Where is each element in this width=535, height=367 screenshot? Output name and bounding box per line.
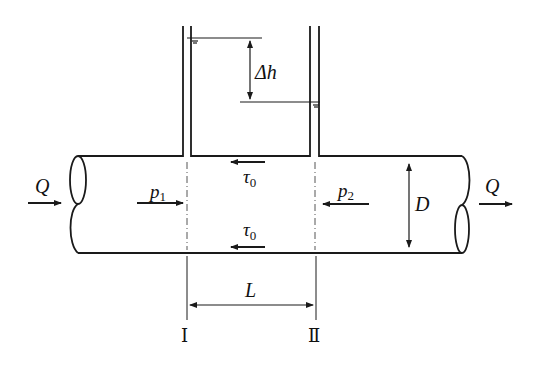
pipe-left-end-lower	[71, 204, 79, 253]
section-2-label: Ⅱ	[308, 326, 320, 346]
pipe-left-end	[70, 156, 86, 204]
water-surface-mark-left	[192, 41, 198, 43]
length-label: L	[244, 279, 256, 301]
pipe-right-end	[455, 205, 469, 253]
p1-label: p1	[148, 181, 166, 204]
pipe-top-wall	[78, 26, 462, 156]
flow-in-label: Q	[35, 175, 50, 197]
section-1-label: Ⅰ	[181, 326, 188, 346]
shear-bottom-label: τ0	[243, 219, 256, 243]
shear-top-label: τ0	[243, 166, 256, 190]
pipe-flow-diagram: Q Q p1 p2 τ0 τ0 Δh D L Ⅰ Ⅱ	[0, 0, 535, 367]
diameter-label: D	[414, 193, 430, 215]
p2-label: p2	[336, 180, 354, 203]
flow-out-label: Q	[485, 175, 500, 197]
pipe-right-end-upper	[462, 156, 470, 205]
delta-h-label: Δh	[254, 61, 277, 83]
